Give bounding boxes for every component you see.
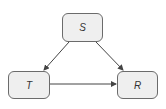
edge-s-to-t [44,42,69,70]
node-t-label: T [26,80,32,91]
node-t: T [8,71,50,99]
node-r: R [117,71,158,99]
node-s: S [62,13,103,42]
edge-s-to-r [96,42,123,70]
node-s-label: S [79,22,86,33]
node-r-label: R [134,80,141,91]
